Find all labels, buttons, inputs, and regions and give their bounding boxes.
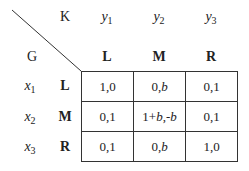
payoff-cell: 0,b: [134, 72, 186, 102]
row-strategy-M: M: [54, 108, 76, 126]
row-var-3: x3: [18, 138, 42, 160]
col-strategy-M: M: [144, 48, 174, 66]
row-player-label: G: [22, 48, 42, 66]
payoff-cell: 1,0: [186, 132, 238, 162]
col-var-3: y3: [196, 8, 226, 30]
payoff-cell: 0,b: [134, 132, 186, 162]
row-var-1: x1: [18, 77, 42, 99]
col-var-2: y2: [144, 8, 174, 30]
matrix-row: 1,0 0,b 0,1: [82, 72, 238, 102]
col-var-1: y1: [92, 8, 122, 30]
matrix-row: 0,1 1+b,-b 0,1: [82, 102, 238, 132]
col-player-label: K: [55, 8, 75, 26]
matrix-row: 0,1 0,b 1,0: [82, 132, 238, 162]
row-var-2: x2: [18, 108, 42, 130]
col-strategy-L: L: [92, 48, 122, 66]
payoff-cell: 0,1: [186, 72, 238, 102]
payoff-cell: 0,1: [82, 102, 134, 132]
row-strategy-R: R: [54, 138, 76, 156]
col-strategy-R: R: [196, 48, 226, 66]
payoff-cell: 0,1: [186, 102, 238, 132]
payoff-cell: 1,0: [82, 72, 134, 102]
row-strategy-L: L: [54, 77, 76, 95]
payoff-cell: 0,1: [82, 132, 134, 162]
payoff-matrix: 1,0 0,b 0,1 0,1 1+b,-b 0,1 0,1 0,b 1,0: [81, 71, 238, 162]
payoff-cell: 1+b,-b: [134, 102, 186, 132]
